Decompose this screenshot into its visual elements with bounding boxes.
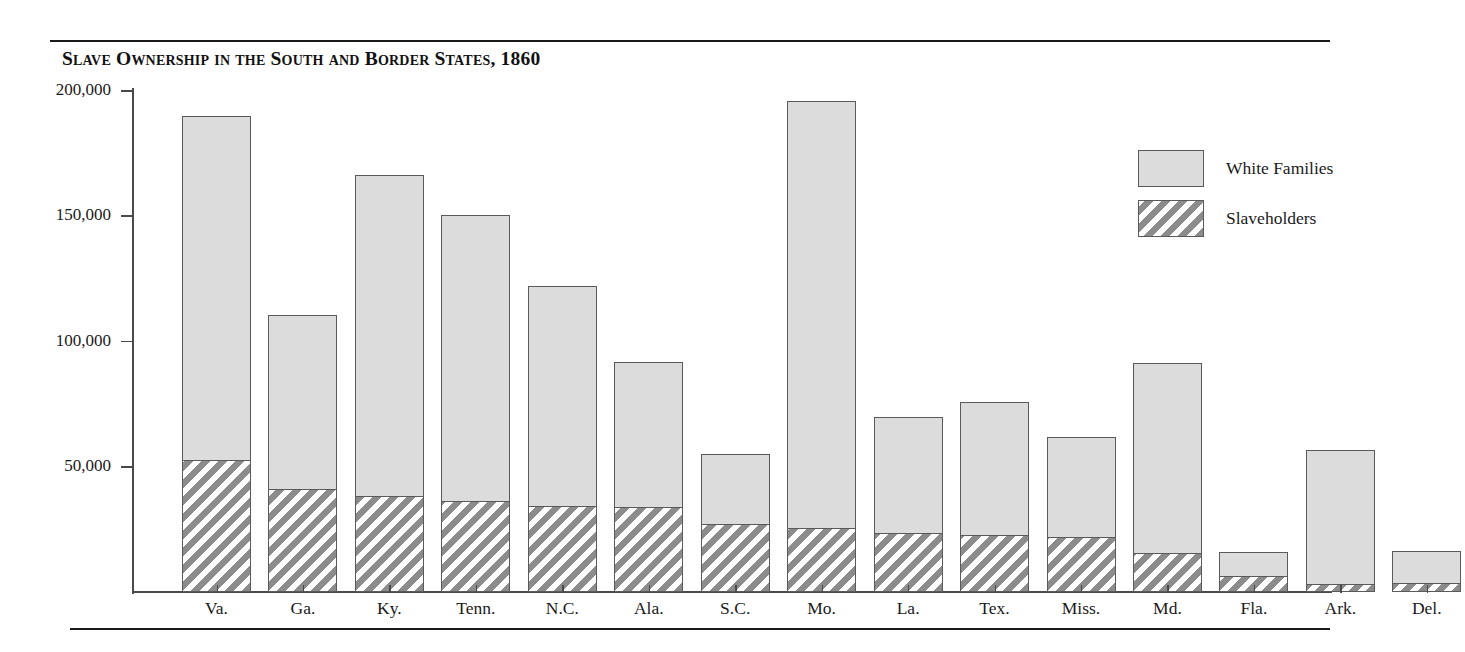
x-tick-label: Del.	[1377, 598, 1465, 619]
chart-title: Slave Ownership in the South and Border …	[62, 48, 540, 70]
x-tick	[389, 585, 390, 593]
top-rule	[50, 40, 1330, 42]
x-tick-label: Tex.	[945, 598, 1045, 619]
bar-slaveholders	[787, 528, 856, 592]
legend-label-white-families: White Families	[1226, 158, 1333, 179]
x-tick-label: Mo.	[772, 598, 872, 619]
legend-swatch-white-families	[1138, 150, 1204, 187]
x-tick	[822, 585, 823, 593]
bar-slaveholders	[441, 501, 510, 592]
y-tick-label: 100,000	[56, 331, 111, 351]
x-tick-label: Ky.	[339, 598, 439, 619]
bar-slaveholders	[874, 533, 943, 592]
x-tick-label: La.	[858, 598, 958, 619]
bar-slaveholders	[355, 496, 424, 592]
x-tick	[1081, 585, 1082, 593]
x-tick	[303, 585, 304, 593]
x-tick-label: Md.	[1117, 598, 1217, 619]
bar-slaveholders	[960, 535, 1029, 592]
x-tick	[1254, 585, 1255, 593]
x-tick	[562, 585, 563, 593]
x-tick-label: Va.	[167, 598, 267, 619]
x-tick	[1427, 585, 1428, 593]
bar-slaveholders	[701, 524, 770, 592]
y-tick-label: 50,000	[64, 456, 111, 476]
y-tick	[121, 215, 134, 217]
bar-slaveholders	[1047, 537, 1116, 592]
legend-entry-slaveholders: Slaveholders	[1138, 200, 1398, 237]
y-tick-label: 200,000	[56, 80, 111, 100]
x-tick-label: Tenn.	[426, 598, 526, 619]
bar-slaveholders	[268, 489, 337, 592]
bottom-rule	[70, 628, 1330, 630]
x-tick-label: Ga.	[253, 598, 353, 619]
bar-slaveholders	[614, 507, 683, 592]
bar-white-families	[787, 101, 856, 592]
x-tick-label: S.C.	[685, 598, 785, 619]
x-tick-label: Ark.	[1290, 598, 1390, 619]
y-tick	[121, 466, 134, 468]
x-tick-label: N.C.	[512, 598, 612, 619]
x-tick	[735, 585, 736, 593]
x-tick	[476, 585, 477, 593]
legend-swatch-slaveholders	[1138, 200, 1204, 237]
x-tick	[1167, 585, 1168, 593]
x-tick-label: Fla.	[1204, 598, 1304, 619]
y-tick-label: 150,000	[56, 205, 111, 225]
x-tick	[217, 585, 218, 593]
y-tick	[121, 90, 134, 92]
legend-label-slaveholders: Slaveholders	[1226, 208, 1316, 229]
x-tick-label: Miss.	[1031, 598, 1131, 619]
x-tick	[1340, 585, 1341, 593]
legend-entry-white-families: White Families	[1138, 150, 1398, 187]
bar-white-families	[1306, 450, 1375, 592]
x-tick	[649, 585, 650, 593]
x-tick	[908, 585, 909, 593]
y-tick	[121, 341, 134, 343]
bar-slaveholders	[182, 460, 251, 592]
x-tick-label: Ala.	[599, 598, 699, 619]
x-tick	[995, 585, 996, 593]
bar-slaveholders	[528, 506, 597, 592]
